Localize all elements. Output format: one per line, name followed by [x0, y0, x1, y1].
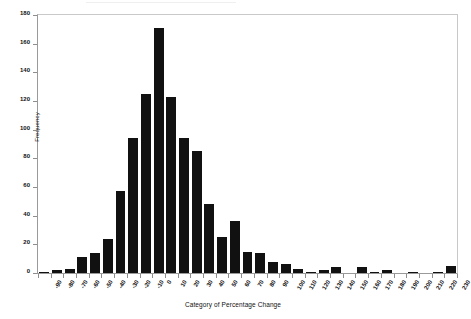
- x-axis-tick-label: 200: [423, 279, 433, 291]
- x-axis-tick-mark: [292, 274, 293, 278]
- x-axis-tick-mark: [267, 274, 268, 278]
- histogram-bar: [243, 252, 253, 274]
- x-axis-tick-label: 160: [372, 279, 382, 291]
- histogram-bar: [281, 264, 291, 273]
- x-axis-tick-mark: [152, 274, 153, 278]
- x-axis-tick-label: -80: [66, 279, 76, 290]
- histogram-bar: [230, 221, 240, 273]
- histogram-bar: [154, 28, 164, 273]
- x-axis-tick-label: 210: [435, 279, 445, 291]
- x-axis-tick-mark: [127, 274, 128, 278]
- x-axis-tick-mark: [101, 274, 102, 278]
- x-axis-tick-mark: [432, 274, 433, 278]
- x-axis-tick-mark: [51, 274, 52, 278]
- y-axis-tick-mark: [33, 244, 37, 245]
- x-axis-tick-mark: [406, 274, 407, 278]
- x-axis-tick-label: -30: [130, 279, 140, 290]
- bars-container: [38, 15, 457, 273]
- histogram-bar: [192, 151, 202, 273]
- x-axis-tick-mark: [330, 274, 331, 278]
- y-axis-tick-mark: [33, 72, 37, 73]
- x-axis-tick-label: -70: [79, 279, 89, 290]
- y-axis-tick-label: 100: [20, 125, 30, 131]
- x-axis-tick-mark: [368, 274, 369, 278]
- x-axis-tick-label: 30: [205, 279, 214, 288]
- y-axis-tick-label: 0: [27, 268, 30, 274]
- y-axis-tick-label: 20: [23, 239, 30, 245]
- x-axis-tick-mark: [140, 274, 141, 278]
- x-axis-tick-label: 170: [384, 279, 394, 291]
- x-axis-tick-label: 0: [165, 279, 172, 285]
- x-axis-tick-mark: [355, 274, 356, 278]
- x-axis-tick-mark: [178, 274, 179, 278]
- histogram-bar: [77, 257, 87, 273]
- histogram-bar: [255, 253, 265, 273]
- histogram-bar: [166, 97, 176, 273]
- x-axis-tick-mark: [228, 274, 229, 278]
- x-axis-tick-label: 220: [448, 279, 458, 291]
- x-axis-tick-label: 180: [397, 279, 407, 291]
- x-axis-tick-mark: [457, 274, 458, 278]
- x-axis-tick-mark: [254, 274, 255, 278]
- x-axis-tick-label: 80: [269, 279, 278, 288]
- x-axis-tick-label: 110: [308, 279, 318, 290]
- histogram-bar: [65, 269, 75, 273]
- histogram-bar: [204, 204, 214, 273]
- histogram-bar: [433, 272, 443, 273]
- x-axis-tick-mark: [203, 274, 204, 278]
- y-axis-tick-label: 60: [23, 182, 30, 188]
- x-axis-tick-mark: [76, 274, 77, 278]
- x-axis-tick-label: 60: [243, 279, 252, 288]
- x-axis-tick-mark: [381, 274, 382, 278]
- histogram-bar: [116, 191, 126, 273]
- x-axis-tick-label: 190: [410, 279, 420, 291]
- x-axis-tick-label: 120: [321, 279, 331, 291]
- x-axis-tick-mark: [190, 274, 191, 278]
- y-axis-tick-label: 140: [20, 67, 30, 73]
- x-axis-tick-label: 100: [296, 279, 306, 291]
- x-axis-tick-mark: [63, 274, 64, 278]
- y-axis-tick-mark: [33, 187, 37, 188]
- x-axis-tick-mark: [38, 274, 39, 278]
- x-axis-tick-mark: [343, 274, 344, 278]
- x-axis-tick-label: 40: [218, 279, 227, 288]
- y-axis-tick-mark: [33, 15, 37, 16]
- histogram-bar: [39, 272, 49, 273]
- x-axis-tick-label: -20: [143, 279, 153, 290]
- x-axis-tick-label: 130: [334, 279, 344, 291]
- x-axis-tick-label: 70: [256, 279, 265, 288]
- histogram-bar: [446, 266, 456, 273]
- x-axis-tick-label: -60: [92, 279, 102, 290]
- histogram-bar: [382, 270, 392, 273]
- x-axis-title: Category of Percentage Change: [0, 301, 466, 308]
- x-axis-tick-mark: [216, 274, 217, 278]
- histogram-bar: [52, 270, 62, 273]
- x-axis-tick-label: -10: [155, 279, 165, 290]
- x-axis-tick-mark: [394, 274, 395, 278]
- x-axis-tick-label: 140: [346, 279, 356, 291]
- histogram-bar: [128, 138, 138, 273]
- x-axis-tick-label: 90: [281, 279, 290, 288]
- x-axis-tick-mark: [89, 274, 90, 278]
- y-axis-tick-mark: [33, 101, 37, 102]
- histogram-bar: [357, 267, 367, 273]
- x-axis-tick-label: 230: [461, 279, 471, 291]
- y-axis-tick-mark: [33, 130, 37, 131]
- y-axis-tick-mark: [33, 158, 37, 159]
- y-axis-tick-label: 160: [20, 39, 30, 45]
- histogram-bar: [217, 237, 227, 273]
- x-axis-tick-mark: [317, 274, 318, 278]
- x-axis-tick-label: -90: [54, 279, 64, 290]
- y-axis-tick-mark: [33, 273, 37, 274]
- x-axis-tick-label: -50: [104, 279, 114, 290]
- x-axis-tick-mark: [444, 274, 445, 278]
- y-axis-tick-label: 180: [20, 10, 30, 16]
- histogram-bar: [408, 272, 418, 273]
- x-axis-tick-mark: [419, 274, 420, 278]
- y-axis-tick-label: 120: [20, 96, 30, 102]
- y-axis-tick-mark: [33, 44, 37, 45]
- x-axis-tick-mark: [165, 274, 166, 278]
- scan-artifact-line: [86, 2, 236, 3]
- histogram-bar: [268, 262, 278, 273]
